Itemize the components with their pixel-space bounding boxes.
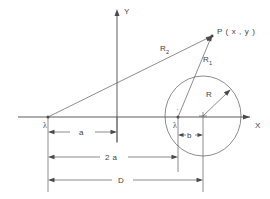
circle-radius-label: R [206, 90, 212, 99]
field-point-label: P ( x , y ) [217, 27, 255, 36]
r2-vector [48, 36, 213, 117]
x-axis-label: X [255, 121, 261, 130]
diagram-canvas: X Y λ R λ ′ P ( x , y ) R [0, 0, 270, 199]
dimension-2a-label: 2 a [105, 153, 117, 162]
y-axis-label: Y [124, 7, 130, 16]
r1-subscript: 1 [209, 60, 212, 66]
secondary-origin-label: λ [173, 121, 177, 130]
origin-label: λ [43, 121, 47, 130]
r2-subscript: 2 [166, 49, 169, 55]
dimension-b-label: b [187, 131, 192, 140]
dimension-D-label: D [118, 176, 124, 185]
secondary-origin-prime: ′ [177, 108, 178, 114]
x-axis [18, 114, 250, 119]
dimension-a-label: a [79, 128, 84, 137]
extension-lines [48, 117, 203, 192]
dimension-D [48, 178, 203, 182]
geometry-figure: X Y λ R λ ′ P ( x , y ) R [0, 0, 270, 199]
